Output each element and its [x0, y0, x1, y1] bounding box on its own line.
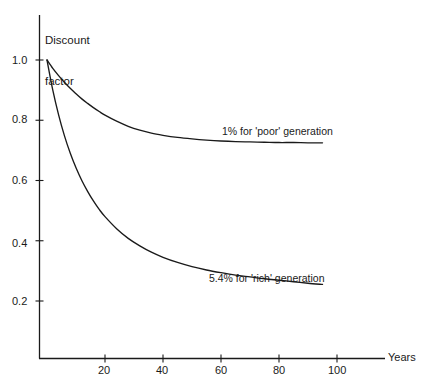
x-tick-label-20: 20	[98, 364, 110, 376]
y-axis-title-line1: Discount	[45, 34, 90, 48]
y-axis-title-line2: factor	[45, 75, 90, 89]
discount-factor-chart: Discount factor 1.0 0.8 0.6 0.4 0.2 20 4…	[0, 0, 430, 389]
y-tick-label-0-8: 0.8	[12, 113, 27, 125]
x-tick-label-40: 40	[156, 364, 168, 376]
y-tick-label-0-2: 0.2	[12, 295, 27, 307]
y-axis-title: Discount factor	[45, 7, 90, 115]
x-axis-title: Years	[388, 351, 416, 363]
annotation-poor-generation: 1% for 'poor' generation	[222, 125, 333, 137]
y-tick-label-0-4: 0.4	[12, 237, 27, 249]
x-tick-label-60: 60	[215, 364, 227, 376]
y-tick-label-0-6: 0.6	[12, 174, 27, 186]
y-tick-label-1-0: 1.0	[12, 54, 27, 66]
x-tick-label-100: 100	[328, 364, 346, 376]
annotation-rich-generation: 5.4% for 'rich' generation	[209, 272, 325, 284]
x-tick-label-80: 80	[273, 364, 285, 376]
axis-group	[39, 15, 385, 359]
